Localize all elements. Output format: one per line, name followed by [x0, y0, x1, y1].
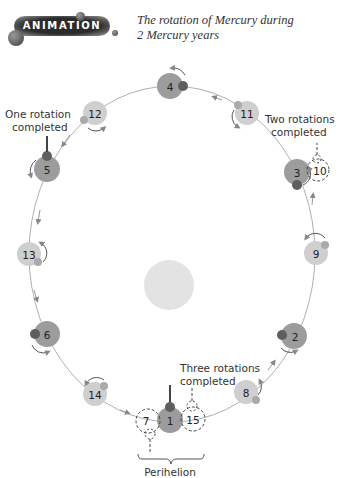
- label-perihelion: Perihelion: [144, 466, 196, 478]
- label-three-rotations-2: completed: [180, 375, 236, 387]
- label-two-rotations-2: completed: [271, 126, 327, 138]
- svg-text:7: 7: [143, 415, 150, 427]
- planet-6: 6: [30, 321, 60, 353]
- sun: [144, 260, 194, 310]
- svg-text:11: 11: [240, 108, 253, 120]
- orbit-direction-arrow: [38, 210, 40, 222]
- planet-12: 12: [80, 101, 107, 131]
- svg-text:10: 10: [313, 165, 326, 177]
- planet-8: 8: [234, 380, 261, 404]
- orbit-direction-arrow: [214, 97, 222, 100]
- svg-text:4: 4: [167, 81, 174, 93]
- svg-text:9: 9: [313, 248, 320, 260]
- svg-text:12: 12: [88, 108, 101, 120]
- planet-9: 9: [304, 233, 329, 265]
- svg-text:8: 8: [243, 387, 250, 399]
- ghost-planet-15: 15: [181, 388, 205, 431]
- planet-2: 2: [277, 323, 307, 352]
- orbit-diagram: 1 2 3 4 5 6 8 9: [0, 0, 338, 478]
- planet-4: 4: [157, 68, 188, 99]
- label-one-rotation: One rotation: [5, 108, 71, 120]
- label-three-rotations: Three rotations: [179, 362, 260, 374]
- orbit-direction-arrow: [268, 362, 274, 370]
- planet-number: 1: [167, 415, 174, 427]
- svg-text:3: 3: [294, 167, 301, 179]
- svg-text:6: 6: [44, 329, 51, 341]
- ghost-planet-7: 7: [136, 409, 160, 452]
- planet-1: 1: [157, 385, 183, 433]
- orbit-direction-arrow: [312, 195, 313, 205]
- svg-text:13: 13: [22, 249, 35, 261]
- planet-5: 5: [30, 136, 60, 182]
- planet-13: 13: [17, 242, 47, 266]
- planet-3: 3: [284, 159, 311, 190]
- label-one-rotation-2: completed: [12, 121, 68, 133]
- svg-text:15: 15: [186, 414, 199, 426]
- svg-text:5: 5: [44, 164, 51, 176]
- perihelion-brace: [138, 454, 204, 464]
- planet-11: 11: [232, 101, 259, 127]
- label-two-rotations: Two rotations: [264, 113, 335, 125]
- orbit-direction-arrow: [63, 135, 70, 145]
- svg-text:14: 14: [88, 389, 102, 401]
- svg-text:2: 2: [292, 331, 299, 343]
